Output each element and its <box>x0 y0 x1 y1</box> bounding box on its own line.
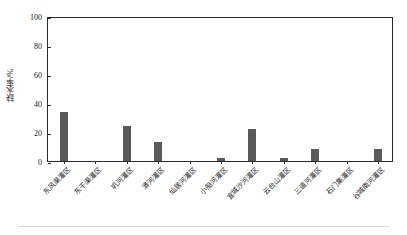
y-tick-mark <box>48 47 51 48</box>
bar <box>217 158 225 161</box>
bar <box>60 112 68 161</box>
x-axis-label: 东干渠灌区 <box>73 166 104 197</box>
x-tick-mark <box>252 161 253 164</box>
chart-figure: 缺水率/% 020406080100 东风渠灌区东干渠灌区巩河灌区漭河灌区仙居河… <box>0 0 407 235</box>
x-tick-mark <box>64 161 65 164</box>
bar <box>248 129 256 161</box>
x-axis-label: 仙居河灌区 <box>168 166 199 197</box>
y-tick-mark <box>48 134 51 135</box>
x-tick-mark <box>284 161 285 164</box>
page-divider <box>18 226 389 227</box>
x-axis-label: 云台山灌区 <box>262 166 293 197</box>
x-tick-mark <box>95 161 96 164</box>
y-axis-title: 缺水率/% <box>4 38 18 134</box>
y-tick-label: 100 <box>30 12 42 23</box>
x-axis-label: 宜城沙河灌区 <box>226 166 262 202</box>
y-tick-label: 20 <box>34 128 42 139</box>
y-tick-label: 40 <box>34 99 42 110</box>
x-axis-label: 三道河灌区 <box>294 166 325 197</box>
x-axis-label: 谷城南河灌区 <box>352 166 388 202</box>
y-tick-mark <box>48 105 51 106</box>
x-tick-mark <box>315 161 316 164</box>
x-tick-mark <box>378 161 379 164</box>
y-tick-mark <box>48 163 51 164</box>
x-tick-mark <box>127 161 128 164</box>
bar <box>154 142 162 161</box>
plot-area: 020406080100 <box>47 17 393 162</box>
bar <box>123 126 131 161</box>
bar <box>311 149 319 161</box>
x-tick-mark <box>347 161 348 164</box>
x-axis-label: 小船河灌区 <box>199 166 230 197</box>
y-tick-label: 0 <box>38 157 42 168</box>
x-axis-label: 东风渠灌区 <box>42 166 73 197</box>
x-axis-label: 石门集灌区 <box>325 166 356 197</box>
x-tick-mark <box>221 161 222 164</box>
y-tick-mark <box>48 76 51 77</box>
x-axis-label: 漭河灌区 <box>141 166 167 192</box>
x-tick-mark <box>158 161 159 164</box>
y-tick-label: 60 <box>34 70 42 81</box>
y-tick-mark <box>48 18 51 19</box>
x-tick-mark <box>190 161 191 164</box>
y-tick-label: 80 <box>34 41 42 52</box>
bar <box>374 149 382 161</box>
x-axis-label: 巩河灌区 <box>110 166 136 192</box>
bar <box>280 158 288 161</box>
